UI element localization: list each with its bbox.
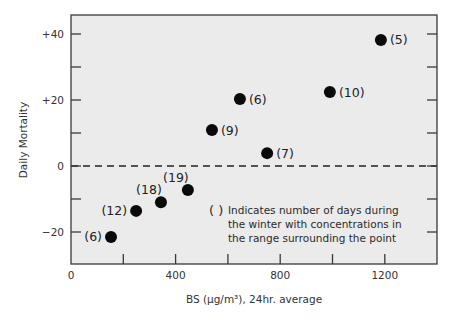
x-tick-label: 0: [68, 269, 75, 281]
point-label: (6): [249, 92, 267, 107]
point-label: (7): [276, 146, 294, 161]
y-tick-label: −20: [42, 226, 64, 238]
annotation-line-3: the range surrounding the point: [228, 232, 396, 244]
x-tick-label: 1200: [371, 269, 398, 281]
annotation-line-2: the winter with concentrations in: [228, 218, 402, 230]
point-label: (19): [163, 170, 189, 185]
data-point: [182, 184, 194, 196]
point-label: (6): [84, 229, 102, 244]
point-label: (12): [101, 203, 127, 218]
y-tick-label: +40: [42, 28, 64, 40]
point-label: (10): [339, 85, 365, 100]
point-label: (5): [390, 32, 408, 47]
y-axis-title: Daily Mortality: [17, 102, 29, 178]
y-tick-label: +20: [42, 94, 64, 106]
data-point: [261, 147, 273, 159]
data-point: [324, 86, 336, 98]
data-point: [105, 231, 117, 243]
annotation-note: ( ) Indicates number of days during the …: [209, 203, 402, 244]
data-point: [155, 196, 167, 208]
scatter-chart: +40+200−20 04008001200 (6)(12)(18)(19)(9…: [0, 0, 457, 320]
annotation-marker: ( ): [209, 203, 223, 218]
data-point: [375, 34, 387, 46]
x-tick-label: 800: [270, 269, 290, 281]
x-tick-label: 400: [166, 269, 186, 281]
annotation-line-1: Indicates number of days during: [228, 204, 399, 216]
point-label: (18): [136, 182, 162, 197]
data-point: [206, 124, 218, 136]
data-point: [130, 205, 142, 217]
point-label: (9): [221, 123, 239, 138]
x-axis-title: BS (µg/m³), 24hr. average: [186, 293, 322, 305]
y-tick-label: 0: [57, 160, 64, 172]
data-point: [234, 93, 246, 105]
